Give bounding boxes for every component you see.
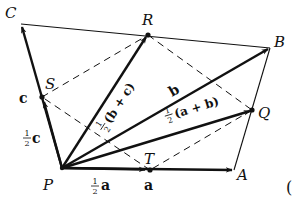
vector-half-a-plus-b <box>62 111 250 168</box>
half-c-numerator: 1 <box>24 129 29 138</box>
half-bc-denominator: 2 <box>102 125 112 134</box>
half-a-denominator: 2 <box>92 187 97 196</box>
quadrilateral-outline <box>21 24 270 170</box>
label-t: T <box>144 150 155 168</box>
dot-t <box>147 167 152 172</box>
cropped-edge-fragment: ( <box>286 178 292 197</box>
half-c-denominator: 2 <box>24 139 29 148</box>
half-ab-denominator: 2 <box>167 115 175 125</box>
label-a: A <box>235 166 248 184</box>
label-c: C <box>5 4 17 22</box>
label-vector-a: a <box>144 177 153 193</box>
point-labels: C R B S Q T P A <box>5 4 285 194</box>
half-ab-expression: (a + b) <box>173 94 221 121</box>
dot-s <box>39 94 44 99</box>
label-q: Q <box>258 104 270 122</box>
label-half-a: 1 2 a <box>91 177 110 196</box>
half-bc-expression: (b + c) <box>101 80 138 126</box>
dashed-t-s <box>42 97 150 170</box>
vector-half-b-plus-c <box>62 37 146 168</box>
dot-r <box>145 32 150 37</box>
label-vector-c: c <box>19 90 28 106</box>
label-s: S <box>45 75 55 93</box>
dot-p <box>60 166 64 170</box>
half-a-numerator: 1 <box>92 177 97 186</box>
label-r: R <box>141 11 153 29</box>
vector-half-a <box>62 168 145 170</box>
label-b: B <box>273 33 285 51</box>
half-a-vector: a <box>101 177 110 193</box>
dot-q <box>249 107 254 112</box>
vector-quadrilateral-diagram: C R B S Q T P A c 1 2 c 1 2 a a b 1 2 (a… <box>0 0 294 202</box>
label-half-c: 1 2 c <box>23 129 41 148</box>
label-p: P <box>42 176 54 194</box>
half-c-vector: c <box>32 130 41 146</box>
vector-half-c <box>44 102 62 168</box>
label-vector-b: b <box>166 81 183 100</box>
position-vectors <box>22 27 268 170</box>
